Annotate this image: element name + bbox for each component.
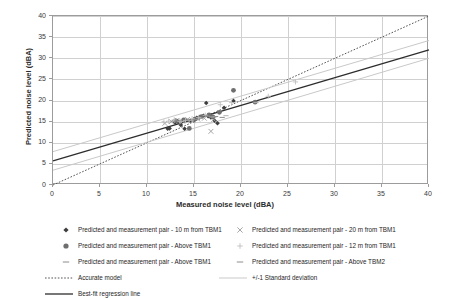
legend-item[interactable]: Predicted and measurement pair - 10 m fr…	[58, 224, 228, 236]
legend-label: +/-1 Standard deviation	[252, 274, 317, 282]
y-tick-label: 20	[30, 96, 46, 103]
legend-item[interactable]: Best-fit regression line	[44, 288, 140, 298]
legend-key	[232, 240, 248, 252]
scatter-chart: Measured noise level (dBA) Predicted noi…	[0, 0, 450, 215]
dotted-line	[45, 273, 73, 283]
legend-key	[58, 224, 74, 236]
legend-item[interactable]: Predicted and measurement pair - Above T…	[58, 240, 228, 252]
legend-label: Predicted and measurement pair - Above T…	[252, 258, 385, 266]
reference-line	[53, 16, 429, 185]
solid-line	[45, 289, 73, 298]
y-tick-label: 5	[30, 159, 46, 166]
legend-item[interactable]: +/-1 Standard deviation	[218, 272, 317, 284]
legend-label: Predicted and measurement pair - Above T…	[78, 242, 211, 250]
legend-item[interactable]: Accurate model	[44, 272, 122, 284]
diamond-marker	[59, 225, 73, 235]
x-tick-label: 35	[371, 190, 391, 197]
reference-line	[53, 41, 429, 152]
legend-key	[44, 272, 74, 284]
y-tick-label: 10	[30, 138, 46, 145]
data-point-circle	[231, 88, 236, 93]
dash-marker	[59, 257, 73, 267]
x-tick-label: 5	[89, 190, 109, 197]
data-point-circle	[217, 110, 222, 115]
legend-label: Predicted and measurement pair - 20 m fr…	[252, 226, 396, 234]
data-point-diamond	[204, 101, 209, 106]
legend-label: Predicted and measurement pair - Above T…	[78, 258, 211, 266]
y-tick-label: 25	[30, 75, 46, 82]
series-x	[162, 116, 216, 134]
gray-line	[219, 273, 247, 283]
legend-item[interactable]: Predicted and measurement pair - 12 m fr…	[232, 240, 444, 252]
diamond-marker	[63, 227, 68, 232]
dash-marker	[233, 257, 247, 267]
legend-label: Predicted and measurement pair - 12 m fr…	[252, 242, 396, 250]
legend-key	[232, 224, 248, 236]
x-tick-label: 20	[230, 190, 250, 197]
circle-marker	[59, 241, 73, 251]
legend-key	[58, 240, 74, 252]
data-point-circle	[187, 126, 192, 131]
x-tick-label: 0	[42, 190, 62, 197]
reference-line	[53, 50, 429, 161]
x-tick-label: 30	[324, 190, 344, 197]
legend-key	[232, 256, 248, 268]
legend-label: Best-fit regression line	[78, 290, 140, 298]
legend-key	[218, 272, 248, 284]
y-tick-label: 30	[30, 54, 46, 61]
legend-item[interactable]: Predicted and measurement pair - Above T…	[58, 256, 228, 268]
legend-key	[44, 288, 74, 298]
data-overlay	[53, 16, 429, 185]
legend-label: Predicted and measurement pair - 10 m fr…	[78, 226, 222, 234]
reference-line	[53, 58, 429, 170]
legend-item[interactable]: Predicted and measurement pair - 20 m fr…	[232, 224, 444, 236]
y-tick-label: 40	[30, 12, 46, 19]
x-tick-label: 15	[183, 190, 203, 197]
legend-label: Accurate model	[78, 274, 122, 282]
y-tick-label: 35	[30, 33, 46, 40]
x-axis-title: Measured noise level (dBA)	[0, 200, 450, 209]
legend-item[interactable]: Predicted and measurement pair - Above T…	[232, 256, 444, 268]
chart-legend: Predicted and measurement pair - 10 m fr…	[0, 222, 450, 298]
y-tick-label: 15	[30, 117, 46, 124]
plot-area	[52, 15, 428, 184]
x-tick-label: 40	[418, 190, 438, 197]
legend-key	[58, 256, 74, 268]
circle-marker	[63, 243, 68, 248]
data-point-x	[209, 129, 214, 134]
x-marker	[233, 225, 247, 235]
plus-marker	[233, 241, 247, 251]
x-tick-label: 25	[277, 190, 297, 197]
y-tick-label: 0	[30, 181, 46, 188]
chart-page: Measured noise level (dBA) Predicted noi…	[0, 0, 450, 298]
x-tick-label: 10	[136, 190, 156, 197]
